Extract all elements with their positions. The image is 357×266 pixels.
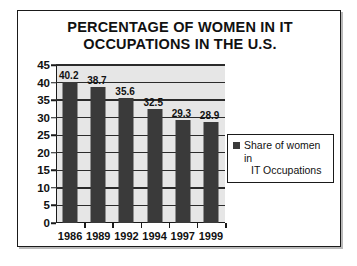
x-axis-tick-label: 1992 — [114, 230, 138, 242]
bar-group: 32.5 — [141, 65, 169, 223]
y-axis-tick-label: 30 — [37, 112, 50, 124]
legend-item: Share of women in IT Occupations — [233, 139, 328, 177]
y-axis-tick-label: 0 — [44, 217, 50, 229]
y-axis-tick-label: 20 — [37, 147, 50, 159]
bar-value-label: 40.2 — [59, 70, 78, 81]
x-axis-tick-mark — [84, 223, 86, 228]
plot-region: 051015202530354045 40.238.735.632.529.32… — [56, 65, 225, 223]
x-axis-tick-label: 1999 — [199, 230, 223, 242]
bar — [63, 82, 78, 223]
x-axis-tick-label: 1986 — [58, 230, 82, 242]
x-axis-tick-label: 1994 — [142, 230, 166, 242]
bar — [119, 98, 134, 223]
y-axis-tick-label: 40 — [37, 77, 50, 89]
bar-group: 40.2 — [56, 65, 84, 223]
bar-group: 29.3 — [169, 65, 197, 223]
x-axis-tick-mark — [197, 223, 199, 228]
x-axis-tick-mark — [112, 223, 114, 228]
chart-title-line-2: OCCUPATIONS IN THE U.S. — [18, 36, 342, 53]
bar-value-label: 38.7 — [87, 75, 106, 86]
bar — [91, 87, 106, 223]
y-axis-tick-label: 25 — [37, 129, 50, 141]
chart-title: PERCENTAGE OF WOMEN IN IT OCCUPATIONS IN… — [18, 19, 342, 53]
bar — [175, 120, 190, 223]
bar-value-label: 32.5 — [144, 97, 163, 108]
bar-series: 40.238.735.632.529.328.9 — [56, 65, 225, 223]
y-axis-tick-label: 5 — [44, 199, 50, 211]
legend-label: Share of women in IT Occupations — [244, 139, 328, 177]
x-axis-tick-mark — [141, 223, 143, 228]
y-axis-tick-label: 10 — [37, 182, 50, 194]
bar-group: 35.6 — [112, 65, 140, 223]
bar — [147, 109, 162, 223]
chart-legend: Share of women in IT Occupations — [227, 134, 334, 183]
bar-group: 38.7 — [84, 65, 112, 223]
x-axis-tick-label: 1989 — [86, 230, 110, 242]
x-axis-tick-mark — [225, 223, 227, 228]
y-axis-tick-label: 45 — [37, 59, 50, 71]
chart-title-line-1: PERCENTAGE OF WOMEN IN IT — [18, 19, 342, 36]
y-axis-tick-label: 15 — [37, 164, 50, 176]
y-axis-tick-label: 35 — [37, 94, 50, 106]
bar-value-label: 28.9 — [200, 110, 219, 121]
bar-value-label: 35.6 — [115, 86, 134, 97]
legend-label-line-1: Share of women in — [244, 139, 320, 164]
x-axis-tick-mark — [169, 223, 171, 228]
chart-card: PERCENTAGE OF WOMEN IN IT OCCUPATIONS IN… — [17, 10, 341, 247]
legend-label-line-2: IT Occupations — [244, 164, 328, 177]
bar-value-label: 29.3 — [172, 108, 191, 119]
x-axis-tick-label: 1997 — [171, 230, 195, 242]
bar-group: 28.9 — [197, 65, 225, 223]
legend-swatch-icon — [233, 142, 240, 149]
bar — [203, 122, 218, 223]
